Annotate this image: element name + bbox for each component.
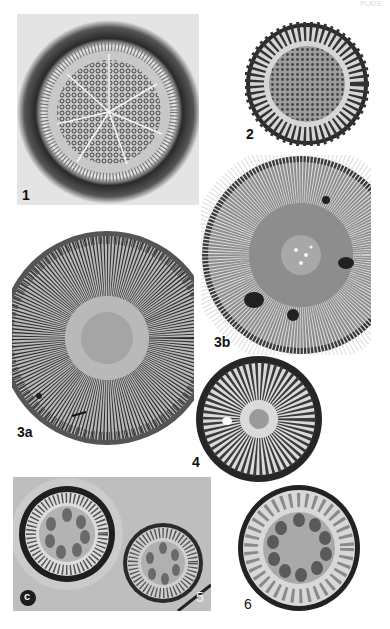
diatom-6-image	[237, 484, 361, 612]
panel-label-6: 6	[244, 597, 252, 611]
panel-1: 1	[17, 14, 199, 205]
diatom-4-image	[193, 355, 323, 483]
panel-label-3a: 3a	[17, 425, 33, 439]
panel-label-3b: 3b	[214, 335, 230, 349]
panel-label-4: 4	[192, 455, 200, 469]
diatom-1-image	[17, 14, 199, 205]
panel-label-2: 2	[246, 127, 254, 141]
panel-3a	[12, 228, 194, 446]
panel-inset-label-5: c	[24, 591, 30, 602]
diatom-2-image	[245, 22, 369, 146]
diatom-3a-image	[12, 228, 194, 446]
panel-label-5: 5	[196, 590, 204, 604]
panel-2	[245, 22, 369, 146]
panel-4	[193, 355, 323, 483]
panel-6	[237, 484, 361, 612]
diatom-3b-image	[201, 155, 371, 355]
panel-3b	[201, 155, 371, 355]
panel-5: c 5	[13, 477, 211, 611]
panel-label-1: 1	[22, 188, 30, 202]
plate-header: PLATE	[360, 0, 382, 7]
diatom-5-image	[13, 477, 211, 611]
